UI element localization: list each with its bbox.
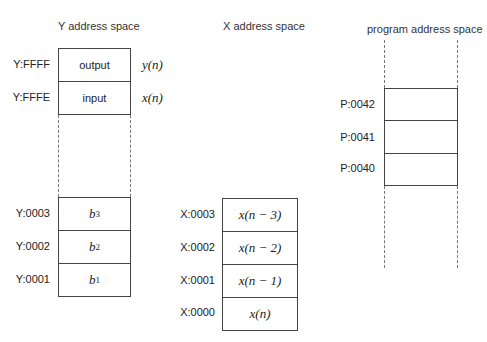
p-cell xyxy=(384,153,458,186)
x-address-label: X:0001 xyxy=(160,274,215,286)
y-cell-input: input xyxy=(58,81,131,115)
x-address-label: X:0003 xyxy=(160,208,215,220)
program-address-space-title: program address space xyxy=(367,23,483,35)
x-cell: x(n − 2) xyxy=(222,231,298,265)
y-cell-output: output xyxy=(58,48,131,82)
y-annotation: x(n) xyxy=(142,90,163,106)
y-address-label: Y:0002 xyxy=(0,240,50,252)
y-cell-b3: b3 xyxy=(58,197,131,231)
y-gap-dashed-right xyxy=(130,115,131,197)
y-annotation: y(n) xyxy=(142,57,163,73)
y-address-space-title: Y address space xyxy=(58,20,140,32)
x-cell: x(n − 3) xyxy=(222,198,298,232)
y-address-label: Y:FFFE xyxy=(0,91,50,103)
y-address-label: Y:0003 xyxy=(0,207,50,219)
x-address-space-title: X address space xyxy=(223,20,305,32)
p-address-label: P:0041 xyxy=(320,131,375,143)
p-dashed-top-right xyxy=(457,40,458,88)
x-address-label: X:0000 xyxy=(160,306,215,318)
y-gap-dashed-left xyxy=(58,115,59,197)
cell-content: input xyxy=(83,92,107,104)
y-cell-b2: b2 xyxy=(58,230,131,264)
p-dashed-top-left xyxy=(384,40,385,88)
p-address-label: P:0042 xyxy=(320,98,375,110)
x-cell: x(n − 1) xyxy=(222,264,298,298)
p-cell xyxy=(384,120,458,154)
y-address-label: Y:0001 xyxy=(0,273,50,285)
p-dashed-bottom-right xyxy=(457,186,458,268)
y-address-label: Y:FFFF xyxy=(0,58,50,70)
p-address-label: P:0040 xyxy=(320,162,375,174)
p-cell xyxy=(384,88,458,121)
x-address-label: X:0002 xyxy=(160,241,215,253)
p-dashed-bottom-left xyxy=(384,186,385,268)
y-cell-b1: b1 xyxy=(58,263,131,297)
cell-content: output xyxy=(79,59,110,71)
x-cell: x(n) xyxy=(222,297,298,331)
